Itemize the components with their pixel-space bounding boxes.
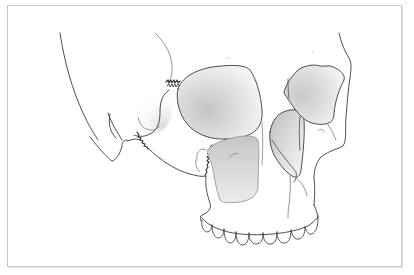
arch-connection	[127, 139, 140, 141]
alveolar-ridge	[202, 216, 318, 235]
maxilla-outline	[200, 176, 210, 221]
mastoid-outline	[90, 137, 127, 161]
bone-fragment	[196, 149, 206, 172]
maxillary-sinus	[207, 136, 258, 203]
temporal-outline	[155, 33, 172, 84]
orbit-label-marks	[226, 51, 313, 58]
canine-eminence	[288, 176, 290, 218]
zygoma-inferior-outline	[148, 148, 206, 176]
skull-illustration	[0, 0, 414, 275]
zygomatic-arch-lower	[109, 114, 116, 138]
left-orbit	[177, 65, 262, 139]
cranium-posterior-outline	[60, 33, 98, 140]
nasal-aperture-right	[262, 122, 263, 165]
upper-teeth	[202, 218, 318, 245]
